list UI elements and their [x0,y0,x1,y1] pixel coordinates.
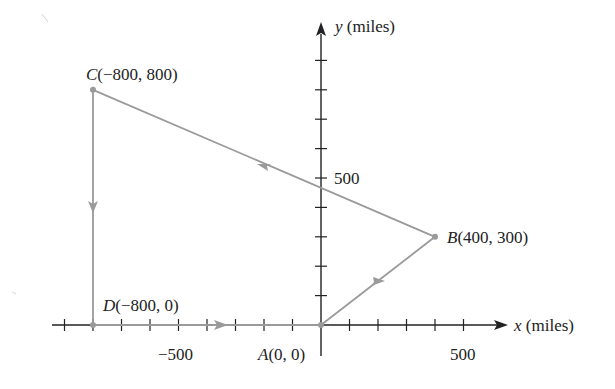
y-axis: y (miles) 500 [315,17,395,356]
point-d-letter: D [102,296,116,315]
points [90,87,438,328]
x-tick-label-neg500: −500 [158,345,193,364]
point-d-coords: (−800, 0) [115,296,178,315]
point-b [432,234,438,240]
segment-b-c [93,90,435,237]
y-axis-arrow-icon [316,22,326,36]
point-a-coords: (0, 0) [268,345,305,364]
point-d [90,322,96,328]
point-c-coords: (−800, 800) [97,65,177,84]
scan-artifacts [12,14,48,294]
point-b-letter: B [447,228,458,247]
arrow-a-b-icon [371,277,385,286]
point-a [318,322,324,328]
point-c-letter: C [86,65,98,84]
y-axis-label: y (miles) [333,17,395,36]
point-c-label: C(−800, 800) [86,65,178,84]
arrow-b-c-icon [257,164,271,171]
y-tick-label-500: 500 [334,169,360,188]
x-tick-label-500: 500 [450,345,476,364]
y-axis-var: y [333,17,343,36]
x-axis-unit: (miles) [522,316,574,335]
y-axis-unit: (miles) [343,17,395,36]
coordinate-diagram: x (miles) −500 500 y (miles) 500 [0,0,615,389]
flight-path [88,90,435,330]
point-b-label: B(400, 300) [447,228,528,247]
x-axis: x (miles) −500 500 [52,316,574,364]
point-c [90,87,96,93]
point-b-coords: (400, 300) [457,228,528,247]
point-a-letter: A [257,345,269,364]
point-d-label: D(−800, 0) [102,296,179,315]
x-axis-label: x (miles) [513,316,574,335]
point-a-label: A(0, 0) [257,345,305,364]
